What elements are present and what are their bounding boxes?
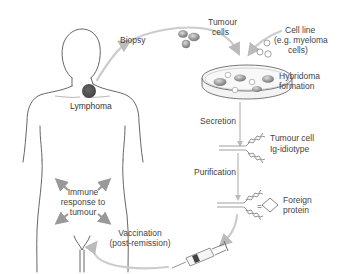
lymphoma-mass bbox=[82, 84, 96, 98]
foreign-protein-label-1: Foreign bbox=[283, 195, 312, 205]
hybridoma-label-2: formation bbox=[279, 81, 315, 91]
idiotype-vaccination-diagram: Lymphoma Immune response to tumour Biops… bbox=[0, 0, 343, 274]
cell-line-label-2: (e.g. myeloma bbox=[274, 35, 328, 45]
hybridoma-label-1: Hybridoma bbox=[279, 71, 320, 81]
syringe-icon bbox=[172, 241, 228, 268]
ig-idiotype-label-2: Ig-idiotype bbox=[270, 144, 309, 154]
ig-idiotype-label-1: Tumour cell bbox=[270, 133, 314, 143]
tumour-cells-label-1: Tumour bbox=[208, 17, 237, 27]
biopsy-label: Biopsy bbox=[120, 35, 146, 45]
foreign-protein-label-2: protein bbox=[283, 205, 309, 215]
to-vaccination-arrow bbox=[222, 215, 237, 244]
cell-line-label-3: cells) bbox=[288, 45, 308, 55]
immune-response-label-3: tumour bbox=[70, 207, 97, 217]
equals-sign: = bbox=[257, 201, 262, 211]
vaccination-label-2: (post-remission) bbox=[110, 238, 171, 248]
secretion-label: Secretion bbox=[200, 116, 236, 126]
immune-response-label-2: response to bbox=[61, 197, 106, 207]
immune-response-label-1: Immune bbox=[68, 187, 99, 197]
vaccination-label-1: Vaccination bbox=[118, 228, 162, 238]
tumour-cells-icon bbox=[179, 31, 200, 49]
biopsy-arrow bbox=[97, 42, 128, 80]
ig-idiotype-antibody-icon bbox=[219, 133, 265, 163]
purification-label: Purification bbox=[194, 167, 236, 177]
foreign-protein-diamond-icon bbox=[262, 198, 278, 212]
tumour-cells-label-2: cells bbox=[212, 27, 229, 37]
lymphoma-label: Lymphoma bbox=[70, 101, 112, 111]
cell-line-label-1: Cell line bbox=[285, 25, 316, 35]
